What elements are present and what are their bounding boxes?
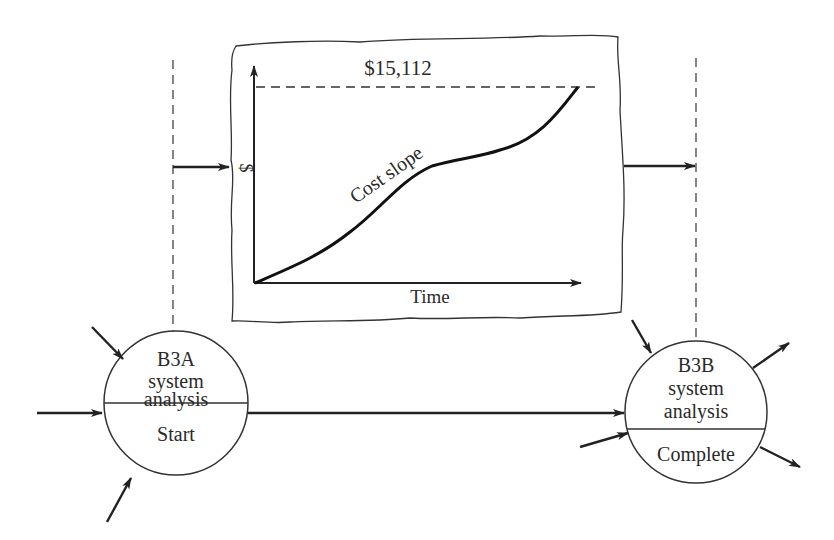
x-axis-label: Time	[410, 286, 449, 307]
node-b3b: B3B system analysis Complete	[625, 341, 767, 483]
node-b3b-line3: analysis	[664, 400, 729, 423]
arrow-out-of-b3b-bottom-right	[760, 447, 800, 467]
node-b3b-id: B3B	[678, 354, 715, 376]
node-b3a-status: Start	[157, 423, 195, 445]
arrow-into-b3b-top	[632, 320, 651, 353]
arrow-out-of-b3b-top-right	[753, 343, 789, 368]
network-diagram: $15,112 Cost slope $ Time B3A system ana…	[0, 0, 834, 540]
node-b3a-id: B3A	[157, 348, 195, 370]
max-value-label: $15,112	[364, 56, 431, 80]
arrow-into-b3a-bottom	[107, 478, 131, 522]
node-b3a-line3: analysis	[144, 388, 209, 411]
node-b3b-status: Complete	[657, 443, 735, 466]
y-axis-label: $	[236, 164, 256, 173]
node-b3b-line2: system	[668, 377, 724, 400]
arrow-into-b3a-top	[92, 327, 123, 359]
node-b3a: B3A system analysis Start	[104, 331, 248, 475]
arrow-into-b3b-bottom-left	[580, 433, 628, 447]
